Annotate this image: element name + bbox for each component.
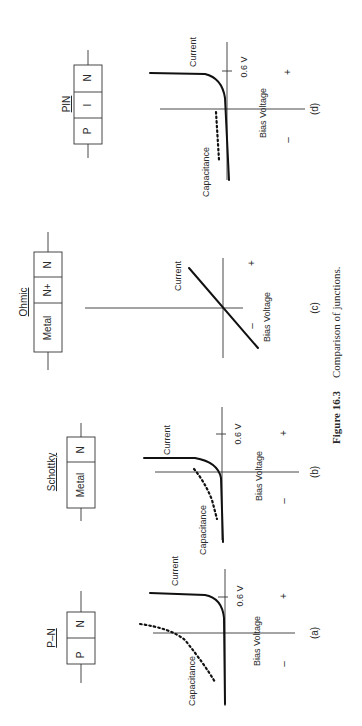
panel-title: Schottky [46, 453, 57, 491]
bias-voltage-label: Bias Voltage [252, 616, 262, 666]
negative-sign: – [278, 498, 289, 504]
positive-sign: + [278, 430, 289, 436]
panel-pin: P I N PIN Current Capacitance 0.6 V Bias… [61, 36, 320, 197]
region-label: N [75, 620, 86, 627]
panel-schottky: Metal N Schottky Current Capacitance 0.6… [46, 407, 320, 555]
region-label: N+ [42, 283, 53, 296]
panel-title: P–N [46, 628, 57, 647]
positive-sign: + [278, 593, 289, 599]
current-label: Current [170, 555, 180, 586]
knee-voltage-label: 0.6 V [233, 423, 243, 444]
region-label: Metal [75, 473, 86, 497]
negative-sign: – [278, 661, 289, 667]
region-label: N [42, 261, 53, 268]
current-label: Current [173, 260, 183, 291]
panel-label: (a) [309, 627, 320, 639]
region-label: P [82, 127, 93, 134]
positive-sign: + [282, 69, 293, 75]
bias-voltage-label: Bias Voltage [262, 292, 272, 342]
bias-voltage-label: Bias Voltage [258, 88, 268, 138]
panel-label: (c) [309, 302, 320, 314]
current-label: Current [188, 36, 198, 67]
current-label: Current [162, 424, 172, 455]
current-curve [144, 458, 223, 542]
bias-voltage-label: Bias Voltage [254, 451, 264, 501]
region-label: I [82, 104, 93, 107]
panel-ohmic: Metal N+ N Ohmic Current Bias Voltage + … [18, 232, 320, 370]
capacitance-label: Capacitance [198, 505, 208, 555]
knee-voltage-label: 0.6 V [235, 585, 245, 606]
capacitance-label: Capacitance [187, 656, 197, 706]
panel-pn: P N P–N Current Capacitance 0.6 V Bias V… [46, 555, 320, 706]
panel-title: PIN [61, 96, 72, 113]
panel-label: (b) [309, 466, 320, 478]
figure-number: Figure 16.3 [330, 391, 342, 444]
positive-sign: + [246, 260, 257, 266]
negative-sign: – [246, 323, 257, 329]
capacitance-curve [216, 112, 219, 160]
region-label: N [75, 446, 86, 453]
panel-label: (d) [309, 103, 320, 115]
capacitance-label: Capacitance [201, 147, 211, 197]
region-label: N [82, 74, 93, 81]
region-label: P [75, 651, 86, 658]
negative-sign: – [282, 137, 293, 143]
panel-title: Ohmic [18, 288, 29, 317]
junction-comparison-figure: P N P–N Current Capacitance 0.6 V Bias V… [0, 0, 362, 726]
caption-text: Comparison of junctions. [330, 266, 342, 378]
knee-voltage-label: 0.6 V [239, 56, 249, 77]
figure-caption: Figure 16.3 Comparison of junctions. [330, 266, 342, 444]
region-label: Metal [42, 316, 53, 340]
